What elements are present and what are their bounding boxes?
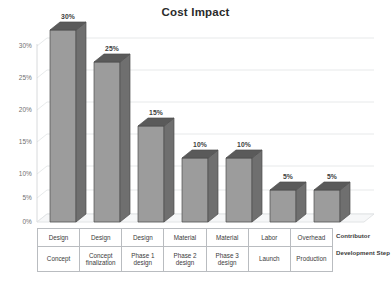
ytick-30: 30% <box>8 42 32 49</box>
bar-phase-2-design <box>182 150 218 222</box>
cell-devstep-4: Phase 2 design <box>164 247 206 272</box>
cell-contributor-6: Labor <box>248 229 290 247</box>
bar-concept <box>50 22 86 222</box>
bar-production <box>314 182 350 222</box>
cell-devstep-6: Launch <box>248 247 290 272</box>
cell-devstep-1: Concept <box>38 247 80 272</box>
ytick-5: 5% <box>8 194 32 201</box>
category-data-table: Design Design Design Material Material L… <box>37 228 333 272</box>
cell-contributor-5: Material <box>206 229 248 247</box>
bar-phase-3-design <box>226 150 262 222</box>
cost-impact-chart: Cost Impact <box>0 0 391 287</box>
table-row-contributor: Design Design Design Material Material L… <box>38 229 333 247</box>
data-label-bar-4: 10% <box>183 141 217 148</box>
cell-contributor-3: Design <box>122 229 164 247</box>
data-label-bar-1: 30% <box>51 13 85 20</box>
cell-contributor-2: Design <box>80 229 122 247</box>
series-title-development-step: Development Step <box>336 249 391 257</box>
cell-devstep-2: Concept finalization <box>80 247 122 272</box>
bar-launch <box>270 182 306 222</box>
cell-devstep-3: Phase 1 design <box>122 247 164 272</box>
ytick-20: 20% <box>8 106 32 113</box>
cell-devstep-5: Phase 3 design <box>206 247 248 272</box>
ytick-0: 0% <box>8 218 32 225</box>
ytick-25: 25% <box>8 74 32 81</box>
cell-contributor-7: Overhead <box>290 229 332 247</box>
bar-phase-1-design <box>138 118 174 222</box>
data-label-bar-2: 25% <box>95 45 129 52</box>
data-label-bar-7: 5% <box>315 173 349 180</box>
data-label-bar-5: 10% <box>227 141 261 148</box>
data-label-bar-3: 15% <box>139 109 173 116</box>
table-row-development-step: Concept Concept finalization Phase 1 des… <box>38 247 333 272</box>
bar-group <box>50 22 350 222</box>
data-label-bar-6: 5% <box>271 173 305 180</box>
series-title-contributor: Contributor <box>336 232 391 240</box>
ytick-15: 15% <box>8 138 32 145</box>
cell-contributor-1: Design <box>38 229 80 247</box>
cell-contributor-4: Material <box>164 229 206 247</box>
ytick-10: 10% <box>8 170 32 177</box>
bar-concept-finalization <box>94 54 130 222</box>
cell-devstep-7: Production <box>290 247 332 272</box>
